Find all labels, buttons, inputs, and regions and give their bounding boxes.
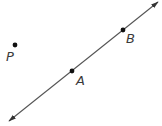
label-point-b: B <box>126 32 135 45</box>
point-b <box>121 28 126 33</box>
point-a <box>70 69 75 74</box>
point-p <box>13 43 18 48</box>
diagram-canvas <box>0 0 162 126</box>
line-ab <box>9 2 158 121</box>
label-point-a: A <box>76 74 85 87</box>
geometry-diagram: P A B <box>0 0 162 126</box>
label-point-p: P <box>6 50 14 63</box>
